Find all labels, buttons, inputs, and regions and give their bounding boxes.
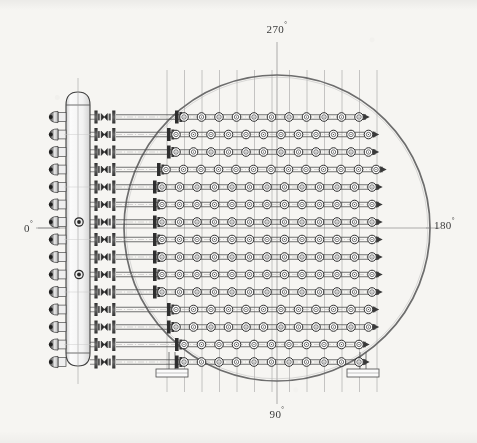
tube-marker — [280, 270, 289, 279]
valve-flange-right — [112, 128, 115, 141]
tube-marker — [368, 200, 377, 209]
tube-marker-center-dot — [280, 134, 281, 135]
tube-marker — [319, 165, 328, 174]
header-nozzle-cap[interactable] — [49, 181, 66, 192]
header-nozzle-cap[interactable] — [49, 304, 66, 315]
tube-marker-center-dot — [280, 326, 281, 327]
tube-marker — [333, 218, 342, 227]
tube-marker — [245, 270, 254, 279]
tube-marker-center-dot — [218, 344, 219, 345]
tube-marker — [193, 218, 202, 227]
header-nozzle-cap[interactable] — [49, 339, 66, 350]
tube-marker — [210, 200, 219, 209]
tube-marker — [245, 183, 254, 192]
header-nozzle-cap[interactable] — [49, 164, 66, 175]
nozzle-bolt-boss — [49, 185, 53, 189]
tube-marker-center-dot — [179, 274, 180, 275]
header-instrument-port[interactable] — [75, 270, 83, 278]
valve-neck-right — [109, 236, 111, 243]
tube-marker — [337, 358, 346, 367]
tube-marker-center-dot — [193, 309, 194, 310]
tube-marker — [298, 183, 307, 192]
tube-marker — [162, 165, 171, 174]
tube-marker — [320, 340, 329, 349]
header-nozzle-cap[interactable] — [49, 269, 66, 280]
tube-marker — [294, 130, 303, 139]
header-instrument-port[interactable] — [75, 218, 83, 226]
header-nozzle-cap[interactable] — [49, 356, 66, 367]
nozzle-bolt-boss — [49, 168, 53, 172]
tube-marker-center-dot — [301, 221, 302, 222]
valve-neck-left — [98, 271, 100, 278]
tube-marker-center-dot — [161, 221, 162, 222]
tube-marker — [315, 183, 324, 192]
tube-marker — [158, 253, 167, 262]
tube-marker — [280, 288, 289, 297]
tube-marker-center-dot — [231, 221, 232, 222]
tube-marker-center-dot — [263, 326, 264, 327]
tube-marker — [245, 253, 254, 262]
valve-flange-right — [112, 338, 115, 351]
valve-flange-left — [94, 356, 97, 369]
valve-neck-left — [98, 114, 100, 121]
tube-marker-center-dot — [323, 344, 324, 345]
tube-marker — [215, 113, 224, 122]
tube-marker-center-dot — [288, 344, 289, 345]
tube-marker — [210, 218, 219, 227]
header-nozzle-cap[interactable] — [49, 251, 66, 262]
tube-marker — [245, 235, 254, 244]
tube-marker-center-dot — [228, 134, 229, 135]
valve-neck-right — [109, 201, 111, 208]
header-nozzle-cap[interactable] — [49, 199, 66, 210]
tube-marker — [294, 305, 303, 314]
tube-marker-center-dot — [210, 134, 211, 135]
tube-marker-center-dot — [210, 151, 211, 152]
header-nozzle-cap[interactable] — [49, 111, 66, 122]
valve-flange-left — [94, 338, 97, 351]
tube-marker-center-dot — [253, 169, 254, 170]
tube-marker-center-dot — [196, 256, 197, 257]
nozzle-bolt-boss — [49, 360, 53, 364]
tube-marker — [242, 130, 251, 139]
tube-marker — [364, 148, 373, 157]
tube-marker-center-dot — [175, 134, 176, 135]
valve-flange-right — [112, 216, 115, 229]
nozzle-stub — [58, 253, 66, 262]
tube-marker — [193, 183, 202, 192]
tube-marker-center-dot — [183, 169, 184, 170]
tube-marker — [263, 235, 272, 244]
tube-marker-center-dot — [249, 186, 250, 187]
tube-marker-center-dot — [371, 204, 372, 205]
tube-marker-center-dot — [315, 134, 316, 135]
header-nozzle-cap[interactable] — [49, 146, 66, 157]
tube-marker — [172, 305, 181, 314]
tube-marker-center-dot — [284, 239, 285, 240]
tube-marker — [368, 218, 377, 227]
tube-marker — [263, 288, 272, 297]
tube-marker — [232, 165, 241, 174]
header-nozzle-cap[interactable] — [49, 286, 66, 297]
nozzle-stub — [58, 305, 66, 314]
valve-flange-left — [94, 268, 97, 281]
tube-marker — [337, 340, 346, 349]
tube-marker — [210, 183, 219, 192]
tube-marker — [347, 323, 356, 332]
tube-marker-center-dot — [301, 239, 302, 240]
header-nozzle-cap[interactable] — [49, 321, 66, 332]
tube-marker-center-dot — [306, 116, 307, 117]
tube-marker — [158, 183, 167, 192]
tube-marker — [197, 358, 206, 367]
tube-marker — [294, 148, 303, 157]
tube-marker-center-dot — [249, 204, 250, 205]
tube-marker — [158, 270, 167, 279]
tube-marker — [298, 253, 307, 262]
header-nozzle-cap[interactable] — [49, 216, 66, 227]
tube-marker — [250, 340, 259, 349]
valve-neck-left — [98, 166, 100, 173]
tube-marker-center-dot — [266, 186, 267, 187]
tube-marker — [228, 235, 237, 244]
header-nozzle-cap[interactable] — [49, 129, 66, 140]
tube-marker — [197, 113, 206, 122]
tube-marker — [364, 305, 373, 314]
header-nozzle-cap[interactable] — [49, 234, 66, 245]
